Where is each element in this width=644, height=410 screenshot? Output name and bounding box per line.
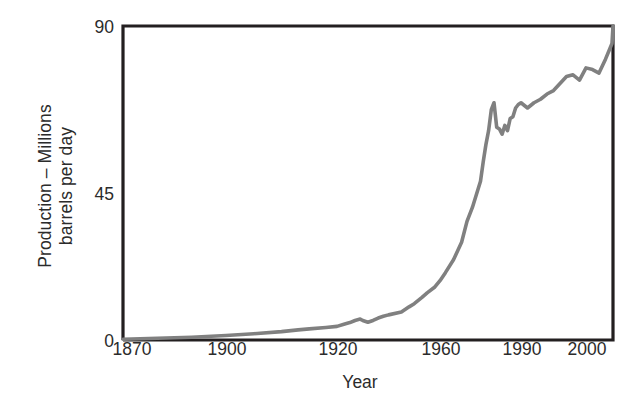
production-line (123, 26, 613, 339)
axis-frame (123, 26, 613, 340)
oil-production-chart: Production – Millions barrels per day 90… (0, 0, 644, 410)
plot-area (0, 0, 644, 410)
